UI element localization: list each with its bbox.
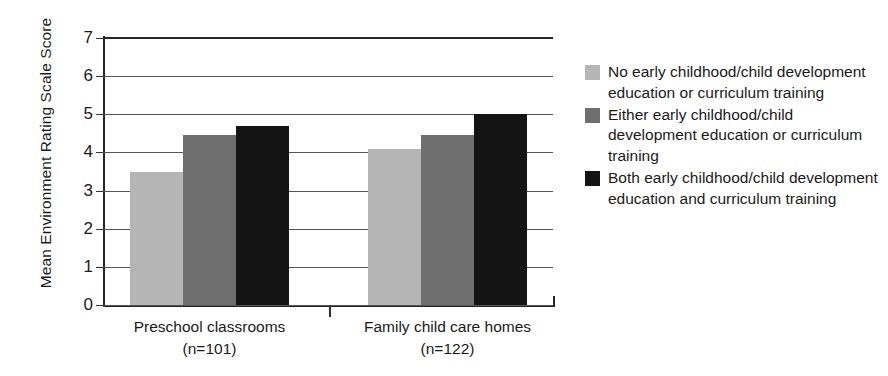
y-axis-tick-mark [96,267,103,268]
legend-item: Either early childhood/child development… [585,105,885,167]
bar [183,135,236,305]
y-axis-tick-label: 1 [67,258,93,275]
bar [130,172,183,306]
legend-label: Both early childhood/child development e… [608,168,880,210]
bar [368,149,421,305]
category-sample-size: (n=122) [328,338,568,360]
bar-chart: Mean Environment Rating Scale Score 0123… [0,0,888,376]
legend-item: Both early childhood/child development e… [585,168,885,210]
y-axis-tick-label: 4 [67,143,93,160]
y-axis-tick-label: 5 [67,105,93,122]
y-axis-tick-label: 7 [67,29,93,46]
bar [421,135,474,305]
y-axis-tick-label: 2 [67,220,93,237]
x-axis-category-label: Preschool classrooms(n=101) [90,316,330,361]
legend-label: No early childhood/child development edu… [608,62,880,104]
y-axis-tick-label: 0 [67,296,93,313]
y-axis-tick-label: 3 [67,182,93,199]
x-axis-right-tick [553,296,555,307]
gridline [103,76,553,77]
category-sample-size: (n=101) [90,338,330,360]
y-axis-tick-label: 6 [67,67,93,84]
legend-swatch-icon [585,65,600,80]
category-name: Preschool classrooms [134,318,286,335]
bar [236,126,289,305]
gridline [103,37,553,39]
y-axis-tick-mark [96,114,103,115]
y-axis-tick-mark [96,38,103,39]
plot-area: 01234567 Preschool classrooms(n=101)Fami… [103,38,553,305]
category-name: Family child care homes [364,318,531,335]
legend-label: Either early childhood/child development… [608,105,880,167]
gridline [103,305,553,306]
legend-item: No early childhood/child development edu… [585,62,885,104]
y-axis-tick-mark [96,229,103,230]
legend-swatch-icon [585,171,600,186]
legend: No early childhood/child development edu… [585,62,885,210]
y-axis-title: Mean Environment Rating Scale Score [37,3,55,303]
legend-swatch-icon [585,108,600,123]
y-axis-tick-mark [96,152,103,153]
x-axis-category-label: Family child care homes(n=122) [328,316,568,361]
y-axis-tick-mark [96,305,103,306]
y-axis-tick-mark [96,191,103,192]
bar [474,114,527,305]
y-axis-tick-mark [96,76,103,77]
